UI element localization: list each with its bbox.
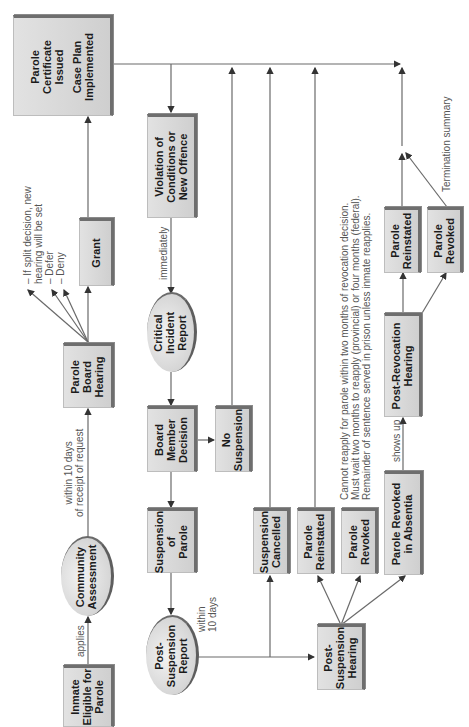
node-inmate-eligible-for-parole: Inmate Eligible for Parole bbox=[63, 665, 114, 727]
node-no-suspension: No Suspension bbox=[215, 406, 252, 472]
node-parole-revoked-suspension: Parole Revoked bbox=[341, 508, 378, 574]
node-parole-board-hearing: Parole Board Hearing bbox=[63, 343, 114, 408]
node-parole-revoked-in-absentia: Parole Revoked in Absentia bbox=[384, 471, 423, 575]
node-board-member-decision: Board Member Decision bbox=[147, 406, 197, 472]
node-grant: Grant bbox=[79, 218, 114, 286]
node-violation-of-conditions: Violation of Conditions or New Offence bbox=[147, 114, 197, 218]
node-parole-reinstated-revocation: Parole Reinstated bbox=[384, 207, 421, 273]
node-suspension-cancelled: Suspension Cancelled bbox=[253, 508, 290, 574]
label-termination-summary: Termination summary bbox=[441, 96, 452, 192]
label-shows-up: shows up bbox=[391, 420, 402, 462]
label-reapply-note: Cannot reapply for parole within two mon… bbox=[339, 195, 372, 500]
node-parole-certificate-issued: Parole Certificate Issued Case Plan Impl… bbox=[13, 15, 113, 116]
node-suspension-of-parole: Suspension of Parole bbox=[147, 508, 197, 573]
label-board-outcomes: – If split decision, new hearing will be… bbox=[22, 186, 66, 284]
node-parole-reinstated-suspension: Parole Reinstated bbox=[297, 508, 334, 574]
node-community-assessment: Community Assessment bbox=[61, 536, 114, 616]
label-immediately: immediately bbox=[158, 227, 169, 280]
node-post-suspension-report: Post- Suspension Report bbox=[146, 615, 199, 695]
label-applies: applies bbox=[75, 625, 86, 657]
node-parole-revoked-revocation: Parole Revoked bbox=[427, 207, 463, 273]
label-within-10-days-of-request: within 10 days of receipt of request bbox=[63, 429, 85, 517]
node-post-suspension-hearing: Post- Suspension Hearing bbox=[317, 624, 365, 690]
node-post-revocation-hearing: Post-Revocation Hearing bbox=[384, 313, 422, 417]
node-critical-incident-report: Critical Incident Report bbox=[147, 292, 197, 372]
label-within-10-days: within 10 days bbox=[196, 597, 218, 632]
